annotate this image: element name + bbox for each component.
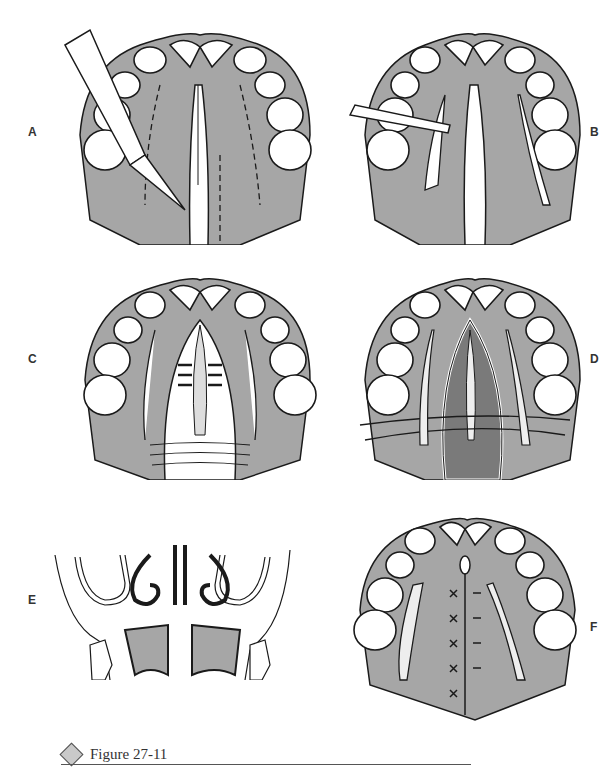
panel-label-c: C: [28, 352, 37, 366]
figure-caption: Figure 27-11: [60, 746, 570, 763]
panel-e: E: [50, 545, 310, 680]
coronal-section-illustration-e: [50, 545, 310, 680]
palate-illustration-c: [60, 270, 320, 480]
diamond-icon: [59, 742, 83, 766]
palate-illustration-a: [60, 5, 320, 245]
panel-label-f: F: [590, 620, 597, 634]
panel-d: D: [340, 270, 590, 480]
figure-title: Figure 27-11: [90, 746, 167, 763]
panel-label-e: E: [28, 593, 36, 607]
palate-illustration-d: [340, 270, 590, 480]
panel-f: F: [345, 515, 585, 730]
panel-c: C: [60, 270, 320, 480]
panel-b: B: [340, 5, 590, 245]
palate-illustration-b: [340, 5, 590, 245]
caption-rule: [61, 764, 471, 765]
palate-illustration-f: [345, 515, 585, 730]
panel-label-a: A: [28, 125, 37, 139]
panel-a: A: [60, 5, 320, 245]
panel-label-d: D: [590, 352, 599, 366]
panel-label-b: B: [590, 125, 599, 139]
